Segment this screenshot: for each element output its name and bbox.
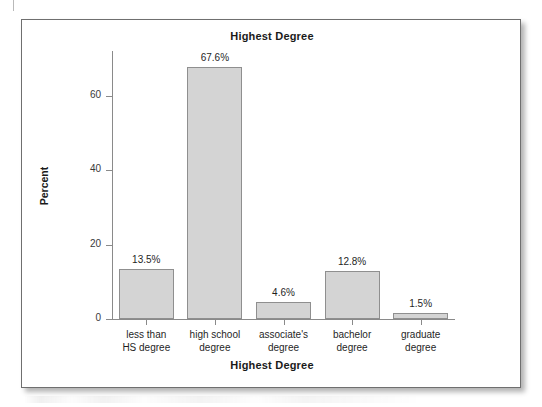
y-tick-label: 60 — [61, 89, 106, 100]
bar-value-label: 13.5% — [106, 254, 186, 265]
y-tick-mark — [106, 170, 112, 171]
y-tick-mark — [106, 245, 112, 246]
y-tick-40: 40 — [106, 170, 112, 171]
bar-value-label: 1.5% — [381, 298, 461, 309]
x-category-label: graduatedegree — [376, 328, 466, 354]
chart-title: Highest Degree — [22, 30, 522, 42]
bar-value-label: 4.6% — [244, 287, 324, 298]
y-tick-label: 40 — [61, 163, 106, 174]
y-tick-mark — [106, 96, 112, 97]
y-axis-line — [112, 51, 113, 320]
x-tick-mark — [421, 320, 422, 325]
x-category-label-line: degree — [376, 341, 466, 354]
x-tick-mark — [215, 320, 216, 325]
x-tick-mark — [352, 320, 353, 325]
figure-frame: Highest Degree Percent 0204060 13.5%67.6… — [21, 19, 521, 388]
bar — [256, 302, 311, 319]
y-tick-label: 0 — [61, 312, 106, 323]
y-tick-mark — [106, 319, 112, 320]
y-tick-60: 60 — [106, 96, 112, 97]
y-axis-title: Percent — [38, 146, 50, 226]
x-tick-mark — [284, 320, 285, 325]
bar — [325, 271, 380, 319]
bar — [187, 67, 242, 319]
bar — [119, 269, 174, 319]
y-tick-20: 20 — [106, 245, 112, 246]
bar — [393, 313, 448, 319]
x-tick-mark — [146, 320, 147, 325]
bar-chart-plot: Highest Degree Percent 0204060 13.5%67.6… — [22, 20, 522, 389]
x-axis-title: Highest Degree — [22, 359, 522, 371]
y-tick-label: 20 — [61, 238, 106, 249]
x-category-label-line: graduate — [376, 328, 466, 341]
scan-registration-tick — [13, 0, 14, 11]
bar-value-label: 67.6% — [175, 52, 255, 63]
y-tick-0: 0 — [106, 319, 112, 320]
bar-value-label: 12.8% — [312, 256, 392, 267]
scan-artifact — [24, 396, 424, 403]
